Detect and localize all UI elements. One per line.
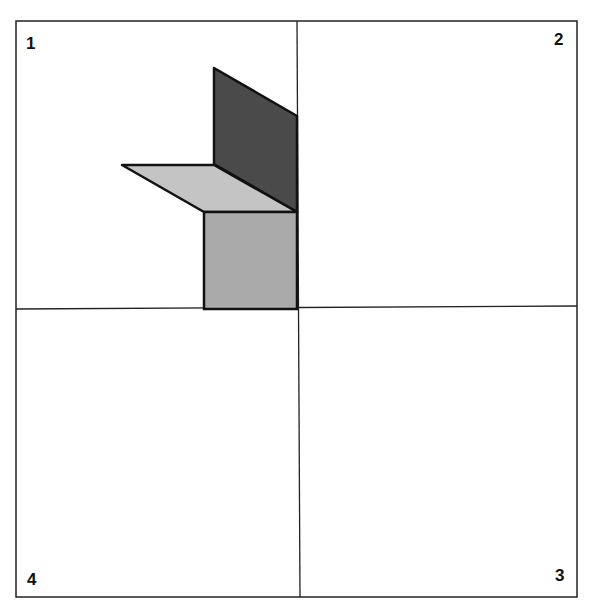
diagram-canvas bbox=[0, 0, 595, 607]
quadrant-label-2: 2 bbox=[554, 30, 563, 50]
quadrant-label-1: 1 bbox=[26, 34, 35, 54]
quadrant-label-4: 4 bbox=[27, 570, 36, 590]
front-box-face bbox=[204, 212, 297, 309]
quadrant-label-3: 3 bbox=[555, 566, 564, 586]
